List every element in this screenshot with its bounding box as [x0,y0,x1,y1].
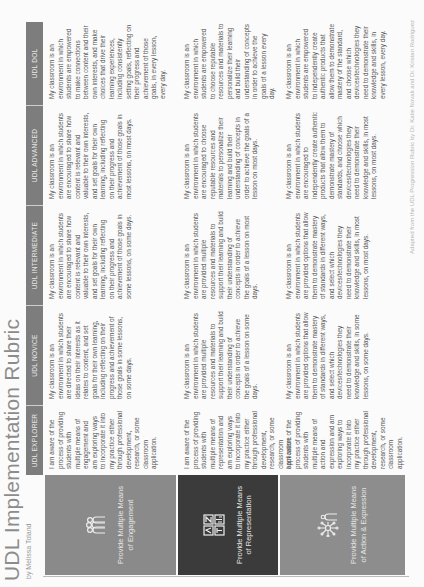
page-title: UDL Implementation Rubric [0,319,24,581]
cell-representation-advanced: My classroom is an environment in which … [180,105,260,205]
row-header-engagement: Provide Multiple Means of Engagement [45,475,176,575]
cell-representation-intermediate: My classroom is an environment in which … [180,205,260,305]
cell-action-dol: My classroom is an environment in which … [282,17,387,105]
rubric-page: UDL Implementation Rubric by Melissa Tol… [0,0,424,587]
row-header-action-expression: Provide Multiple Means of Action & Expre… [280,475,405,575]
people-icon [86,514,106,536]
cell-engagement-explorer: I am aware of the process of providing s… [45,405,159,475]
network-person-icon [317,513,339,537]
level-header-explorer: UDL EXPLORER [26,405,43,475]
cell-action-explorer: I am aware of the process of providing s… [282,405,404,475]
cell-engagement-advanced: My classroom is an environment in which … [45,105,133,205]
level-header-dol: UDL DOL [26,22,43,105]
row-header-label: Provide Multiple Means of Action & Expre… [349,483,368,567]
cell-action-intermediate: My classroom is an environment in which … [282,205,370,305]
cell-action-novice: My classroom is an environment in which … [282,305,370,405]
left-divider [43,576,409,585]
cell-representation-novice: My classroom is an environment in which … [180,305,260,405]
level-header-advanced: UDL ADVANCED [26,105,43,205]
level-header-intermediate: UDL INTERMEDIATE [26,205,43,305]
cell-representation-explorer: I am aware of the process of providing s… [180,405,294,475]
cell-engagement-dol: My classroom is an environment in which … [45,17,167,105]
cell-action-advanced: My classroom is an environment in which … [282,105,379,205]
cell-engagement-novice: My classroom is an environment in which … [45,305,133,405]
level-header-novice: UDL NOVICE [26,305,43,405]
cell-representation-dol: My classroom is an environment in which … [180,17,277,105]
author-byline: by Melissa Toland [25,523,32,579]
cell-engagement-intermediate: My classroom is an environment in which … [45,205,133,305]
row-header-representation: Provide Multiple Means of Representation [178,475,278,575]
attribution-footer: Adapted from the UDL Progression Rubric … [409,20,415,254]
row-header-label: Provide Multiple Means of Representation [235,483,254,567]
row-header-label: Provide Multiple Means of Engagement [116,483,135,567]
media-grid-icon [203,514,225,536]
